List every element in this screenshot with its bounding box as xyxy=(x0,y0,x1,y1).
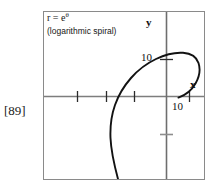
plot-canvas xyxy=(44,12,204,179)
figure-number-label: [89] xyxy=(4,103,26,119)
spiral-curve xyxy=(110,53,199,179)
equation-exponent: θ xyxy=(65,11,68,19)
plot-frame xyxy=(43,11,205,180)
equation-annotation: r = eθ (logarithmic spiral) xyxy=(47,13,139,35)
x-tick-label-10: 10 xyxy=(172,100,183,112)
equation-text: r = eθ xyxy=(47,13,139,24)
y-tick-label-10: 10 xyxy=(141,51,152,63)
equation-subtitle: (logarithmic spiral) xyxy=(47,27,139,36)
x-axis-label: x xyxy=(190,78,196,90)
figure-page: [89] r = eθ (logarithmic spiral) xyxy=(0,0,216,191)
y-axis-label: y xyxy=(146,16,152,28)
equation-prefix: r = e xyxy=(47,12,65,23)
